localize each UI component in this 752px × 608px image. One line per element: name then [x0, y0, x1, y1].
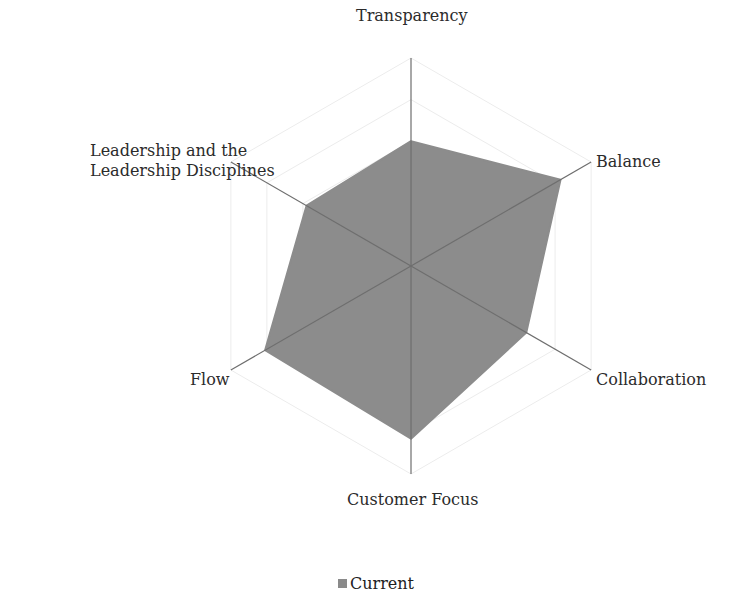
series-current [265, 141, 560, 438]
series-area [265, 141, 560, 438]
axis-label-flow: Flow [190, 370, 230, 390]
axis-label-transparency: Transparency [356, 6, 468, 26]
legend-swatch-current [338, 579, 347, 588]
axis-label-customer-focus: Customer Focus [347, 490, 479, 510]
axis-label-leadership-line1: Leadership and the [90, 141, 236, 161]
axis-label-leadership: Leadership and the Leadership Discipline… [90, 141, 236, 181]
axis-label-balance: Balance [596, 152, 661, 172]
radar-chart [0, 0, 752, 608]
legend: Current [0, 574, 752, 593]
axis-label-leadership-line2: Leadership Disciplines [90, 161, 236, 181]
axis-label-collaboration: Collaboration [596, 370, 706, 390]
legend-label-current: Current [350, 574, 414, 593]
